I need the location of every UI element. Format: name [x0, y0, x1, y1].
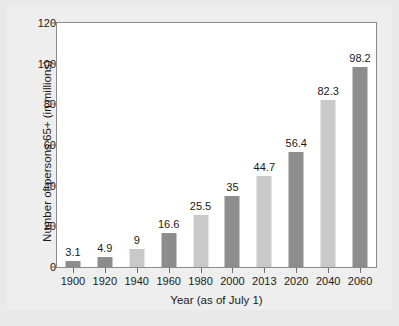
bar-slot: 25.5 [185, 23, 217, 267]
bar-2020[interactable] [289, 152, 304, 267]
bar-value-label-2040: 82.3 [317, 85, 338, 97]
bar-slot: 98.2 [344, 23, 376, 267]
x-axis-tickmark [201, 268, 202, 273]
bar-chart-figure: 020406080100120 Number of persons 65+ (i… [0, 0, 399, 326]
x-axis-tickmark [105, 268, 106, 273]
bar-slot: 3.1 [57, 23, 89, 267]
x-axis-tickmark [232, 268, 233, 273]
x-axis-tickmark [169, 268, 170, 273]
x-axis-label: Year (as of July 1) [56, 294, 377, 306]
bar-slot: 9 [121, 23, 153, 267]
x-axis-tick-labels: 1900192019401960198020002013202020402060 [57, 275, 376, 291]
x-axis-tickmark [264, 268, 265, 273]
x-axis-tickmark [296, 268, 297, 273]
x-axis-tickmark [137, 268, 138, 273]
bar-value-label-1940: 9 [134, 234, 140, 246]
bar-value-label-2000: 35 [226, 181, 238, 193]
bar-slot: 44.7 [248, 23, 280, 267]
bar-slot: 16.6 [153, 23, 185, 267]
bar-value-label-1900: 3.1 [65, 246, 80, 258]
bar-1920[interactable] [97, 257, 112, 267]
y-axis-tickmark [51, 23, 56, 24]
x-axis-tick-2060: 2060 [340, 275, 380, 287]
bar-slot: 35 [217, 23, 249, 267]
x-axis-tick-marks [57, 268, 376, 273]
bar-2013[interactable] [257, 176, 272, 267]
bar-value-label-2013: 44.7 [254, 161, 275, 173]
y-axis-label: Number of persons 65+ (in millions) [41, 26, 53, 276]
bar-value-label-1960: 16.6 [158, 218, 179, 230]
bar-1960[interactable] [161, 233, 176, 267]
bar-slot: 4.9 [89, 23, 121, 267]
bar-value-label-2060: 98.2 [349, 52, 370, 64]
bar-2060[interactable] [353, 67, 368, 267]
x-axis-tickmark [73, 268, 74, 273]
bar-slot: 56.4 [280, 23, 312, 267]
x-axis-tickmark [360, 268, 361, 273]
bar-value-label-1980: 25.5 [190, 200, 211, 212]
x-axis-tickmark [328, 268, 329, 273]
bar-2000[interactable] [225, 196, 240, 267]
bars-container: 3.14.9916.625.53544.756.482.398.2 [57, 23, 376, 267]
bar-value-label-1920: 4.9 [97, 242, 112, 254]
bar-1980[interactable] [193, 215, 208, 267]
bar-1900[interactable] [65, 261, 80, 267]
bar-1940[interactable] [129, 249, 144, 267]
bar-value-label-2020: 56.4 [286, 137, 307, 149]
bar-slot: 82.3 [312, 23, 344, 267]
bar-2040[interactable] [321, 100, 336, 267]
